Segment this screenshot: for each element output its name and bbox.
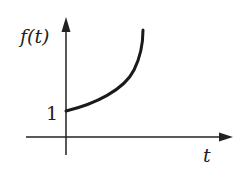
x-axis-label: t bbox=[203, 146, 211, 165]
function-curve bbox=[66, 30, 143, 111]
y-tick-label-1: 1 bbox=[46, 104, 58, 123]
y-axis-arrow-icon bbox=[62, 17, 71, 32]
y-axis-label: f(t) bbox=[20, 27, 50, 46]
x-axis-arrow-icon bbox=[219, 133, 233, 142]
